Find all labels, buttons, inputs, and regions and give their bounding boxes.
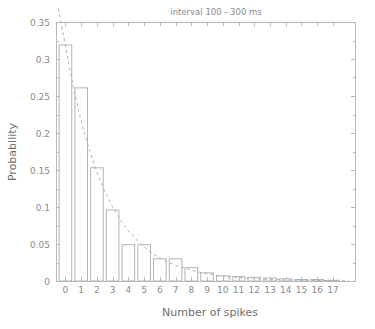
x-tick-label: 16 <box>312 285 324 295</box>
exponential-fit-curve <box>58 9 348 281</box>
x-tick-label: 5 <box>141 285 147 295</box>
histogram-bar <box>75 88 88 281</box>
y-axis-title: Probability <box>6 122 19 181</box>
histogram-bar <box>91 168 104 281</box>
histogram-bar <box>59 45 72 281</box>
histogram-bar <box>106 210 119 281</box>
x-tick-label: 2 <box>94 285 100 295</box>
x-tick-label: 11 <box>233 285 244 295</box>
x-tick-label: 15 <box>296 285 307 295</box>
histogram-bar <box>169 259 182 281</box>
x-tick-label: 12 <box>249 285 260 295</box>
y-tick-label: 0.35 <box>30 18 50 28</box>
x-tick-label: 13 <box>264 285 275 295</box>
x-tick-label: 10 <box>217 285 229 295</box>
y-axis-tick-labels: 00.050.10.150.20.250.30.35 <box>30 18 50 287</box>
x-tick-label: 9 <box>204 285 210 295</box>
histogram-bar <box>154 259 167 281</box>
chart-title: interval 100 - 300 ms <box>170 7 262 17</box>
x-tick-label: 8 <box>188 285 194 295</box>
y-tick-label: 0.25 <box>30 92 50 102</box>
histogram-bar <box>122 245 135 281</box>
probability-histogram-chart: 00.050.10.150.20.250.30.35 0123456789101… <box>0 0 375 329</box>
x-tick-label: 3 <box>110 285 116 295</box>
x-axis-tick-labels: 01234567891011121314151617 <box>63 285 339 295</box>
y-tick-label: 0.3 <box>36 55 50 65</box>
histogram-bar <box>217 276 230 281</box>
y-tick-label: 0 <box>44 277 50 287</box>
x-tick-label: 4 <box>126 285 132 295</box>
y-tick-label: 0.2 <box>36 129 50 139</box>
plot-frame <box>57 23 356 282</box>
histogram-bars <box>59 45 339 281</box>
x-tick-label: 17 <box>327 285 338 295</box>
x-axis-ticks <box>66 22 334 281</box>
y-tick-label: 0.15 <box>30 166 50 176</box>
x-tick-label: 0 <box>63 285 69 295</box>
fit-curve-path <box>58 9 348 281</box>
histogram-bar <box>138 245 151 281</box>
y-axis-ticks <box>56 23 355 282</box>
x-axis-title: Number of spikes <box>162 306 258 319</box>
x-tick-label: 7 <box>173 285 179 295</box>
x-tick-label: 1 <box>78 285 84 295</box>
x-tick-label: 14 <box>280 285 292 295</box>
figure-container: 00.050.10.150.20.250.30.35 0123456789101… <box>0 0 375 329</box>
x-tick-label: 6 <box>157 285 163 295</box>
axes-frame <box>57 23 356 282</box>
y-tick-label: 0.1 <box>36 203 50 213</box>
y-tick-label: 0.05 <box>30 240 50 250</box>
